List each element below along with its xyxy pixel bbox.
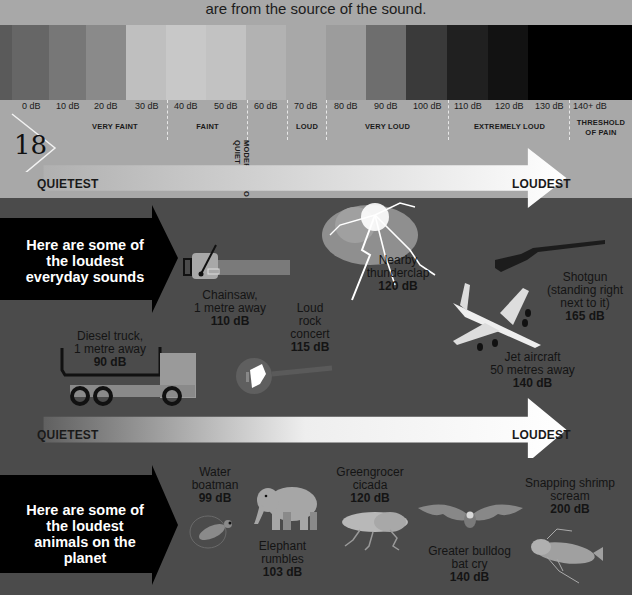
category-loud: LOUD xyxy=(289,122,325,132)
db-label: 0 dB xyxy=(22,101,41,111)
snapping-shrimp-icon xyxy=(527,527,607,587)
scale-segment-60-db xyxy=(246,25,286,100)
chainsaw-db: 110 dB xyxy=(180,315,280,328)
elephant-label: Elephant rumbles 103 dB xyxy=(250,540,315,579)
snapping-shrimp-label: Snapping shrimp scream 200 dB xyxy=(510,477,630,516)
jet-aircraft-label: Jet aircraft 50 metres away 140 dB xyxy=(480,351,585,390)
cicada-label: Greengrocer cicada 120 dB xyxy=(325,466,415,505)
category-faint: FAINT xyxy=(170,122,245,132)
db-label: 40 dB xyxy=(174,101,198,111)
cicada-db: 120 dB xyxy=(325,492,415,505)
shotgun-icon xyxy=(493,238,608,274)
db-label: 60 dB xyxy=(254,101,278,111)
animals-banner-text: Here are some of the loudest animals on … xyxy=(20,502,150,566)
decibel-labels: 0 dB 10 dB 20 dB 30 dB 40 dB 50 dB 60 dB… xyxy=(0,101,632,115)
cicada-icon xyxy=(335,508,410,553)
scale-segment-90-db xyxy=(366,25,406,100)
quietest-label: QUIETEST xyxy=(37,177,99,191)
db-label: 120 dB xyxy=(495,101,524,111)
db-label: 140+ dB xyxy=(573,101,607,111)
category-very-loud: VERY LOUD xyxy=(330,122,445,132)
elephant-icon xyxy=(250,482,320,532)
scale-segment-80-db xyxy=(326,25,366,100)
db-label: 30 dB xyxy=(135,101,159,111)
loudest-label: LOUDEST xyxy=(512,428,571,442)
scale-segment-50-db xyxy=(206,25,246,100)
scale-segment-40-db xyxy=(166,25,206,100)
scale-segment-120-db xyxy=(488,25,528,100)
snapping-shrimp-db: 200 dB xyxy=(510,503,630,516)
loudest-label: LOUDEST xyxy=(512,177,571,191)
caption: are from the source of the sound. xyxy=(0,0,632,18)
water-boatman-label: Water boatman 99 dB xyxy=(185,466,245,505)
rock-concert-label: Loud rock concert 115 dB xyxy=(285,302,335,354)
scale-segment-30-db xyxy=(126,25,166,100)
category-extremely-loud: EXTREMELY LOUD xyxy=(452,122,567,132)
db-label: 70 dB xyxy=(294,101,318,111)
everyday-banner-text: Here are some of the loudest everyday so… xyxy=(20,237,150,285)
db-label: 50 dB xyxy=(214,101,238,111)
shotgun-label: Shotgun (standing right next to it) 165 … xyxy=(540,271,630,323)
shotgun-db: 165 dB xyxy=(540,310,630,323)
db-label: 110 dB xyxy=(454,101,482,111)
db-label: 20 dB xyxy=(94,101,118,111)
category-divider xyxy=(448,100,449,140)
category-divider xyxy=(247,100,248,140)
category-divider xyxy=(326,100,327,140)
guitar-icon xyxy=(232,352,342,398)
bulldog-bat-db: 140 dB xyxy=(417,571,522,584)
db-label: 10 dB xyxy=(56,101,80,111)
thunderclap-label: Nearby thunderclap 120 dB xyxy=(358,254,438,293)
db-label: 90 dB xyxy=(374,101,398,111)
bulldog-bat-label: Greater bulldog bat cry 140 dB xyxy=(417,545,522,584)
scale-segment-0 xyxy=(0,25,12,100)
quietest-label: QUIETEST xyxy=(37,428,99,442)
airplane-icon xyxy=(445,283,545,353)
water-boatman-icon xyxy=(186,512,242,552)
category-divider xyxy=(569,100,570,140)
db-label: 130 dB xyxy=(535,101,564,111)
scale-segment-100-db xyxy=(406,25,447,100)
scale-segment-140-db xyxy=(528,25,632,100)
category-divider xyxy=(167,100,168,140)
scale-segment-20-db xyxy=(86,25,126,100)
scale-segment-70-db xyxy=(286,25,326,100)
decibel-scale-bar xyxy=(0,25,632,100)
scale-segment-0-db xyxy=(12,25,49,100)
elephant-db: 103 dB xyxy=(250,566,315,579)
scale-segment-110-db xyxy=(447,25,488,100)
db-label: 100 dB xyxy=(413,101,442,111)
chainsaw-label: Chainsaw, 1 metre away 110 dB xyxy=(180,289,280,328)
water-boatman-db: 99 dB xyxy=(185,492,245,505)
chainsaw-icon xyxy=(180,243,290,281)
db-label: 80 dB xyxy=(334,101,358,111)
scale-segment-10-db xyxy=(49,25,86,100)
category-very-faint: VERY FAINT xyxy=(70,122,160,132)
thunderclap-db: 120 dB xyxy=(358,280,438,293)
category-threshold-of-pain: THRESHOLD OF PAIN xyxy=(572,118,630,138)
category-divider xyxy=(287,100,288,140)
jet-aircraft-db: 140 dB xyxy=(480,377,585,390)
